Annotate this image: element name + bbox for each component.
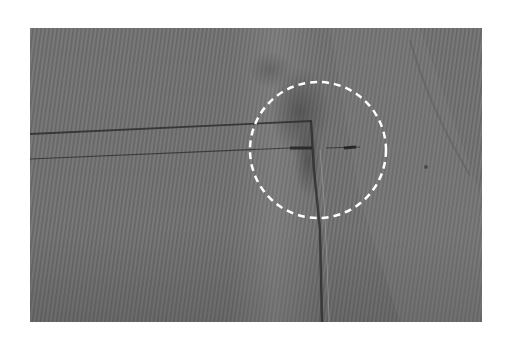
fabric-texture bbox=[30, 28, 482, 322]
fabric-photo bbox=[30, 28, 482, 322]
